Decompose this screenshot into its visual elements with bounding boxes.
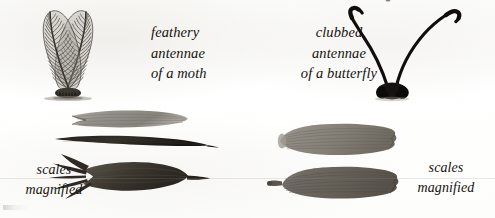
caption-butterfly-scales-line-1: scales [406, 158, 486, 178]
caption-moth-line-2: antennae [151, 43, 207, 64]
caption-moth-line-1: feathery [151, 22, 207, 43]
butterfly-antenna-left [350, 8, 388, 88]
butterfly-antenna-right [396, 11, 459, 88]
caption-moth-scales-line-2: magnified [16, 180, 92, 200]
butterfly-scale-2 [267, 167, 398, 199]
caption-moth-antennae: feathery antennae of a moth [151, 22, 207, 84]
illustration-plate: feathery antennae of a moth clubbed ante… [0, 0, 495, 218]
caption-moth-scales-line-1: scales [16, 160, 92, 180]
moth-scale-1 [72, 111, 188, 128]
moth-antennae-base [44, 88, 92, 101]
butterfly-scale-1 [278, 124, 397, 155]
caption-butterfly-scales: scales magnified [406, 158, 486, 198]
caption-moth-line-3: of a moth [151, 63, 207, 84]
butterfly-antennae-base [375, 0, 409, 101]
magnified-butterfly-scales [258, 115, 418, 215]
caption-moth-scales: scales magnified [16, 160, 92, 200]
page-edge-mark [3, 205, 29, 210]
clubbed-butterfly-antennae [330, 0, 480, 104]
caption-butterfly-scales-line-2: magnified [406, 178, 486, 198]
moth-scale-2 [55, 136, 219, 148]
feathery-moth-antennae [6, 0, 126, 104]
